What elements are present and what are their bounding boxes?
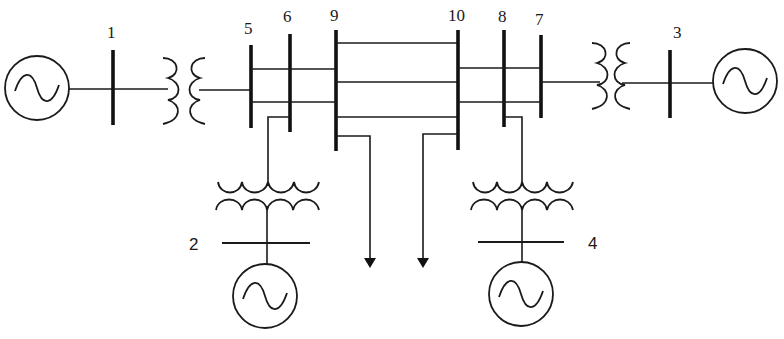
load-feeder-bus9 (336, 136, 370, 262)
bus8-to-xfmr4 (504, 117, 522, 182)
bus-10-label: 10 (448, 6, 465, 25)
transformer-1-icon (163, 58, 205, 124)
generator-1 (5, 56, 69, 120)
load-arrow-icon (417, 258, 429, 268)
bus-8-label: 8 (498, 7, 507, 26)
bus-6-label: 6 (283, 7, 292, 26)
bus6-to-xfmr2 (268, 117, 290, 182)
bus-1-label: 1 (107, 23, 116, 42)
generator-3 (713, 49, 777, 113)
bus-3-label: 3 (673, 23, 682, 42)
two-area-power-system-diagram: 1 5 6 9 10 8 7 3 (0, 0, 784, 339)
generator-2 (233, 264, 297, 328)
transformer-3-icon (592, 43, 630, 109)
bus-4-label: 4 (588, 234, 597, 253)
transformer-2-icon (216, 182, 319, 210)
bus-7-label: 7 (535, 10, 544, 29)
generator-4 (489, 262, 553, 326)
load-arrow-icon (364, 258, 376, 268)
bus-2-label: 2 (189, 235, 198, 254)
bus-9-label: 9 (330, 6, 339, 25)
load-feeder-bus10 (423, 134, 458, 262)
transformer-4-icon (471, 182, 573, 210)
bus-5-label: 5 (244, 19, 253, 38)
